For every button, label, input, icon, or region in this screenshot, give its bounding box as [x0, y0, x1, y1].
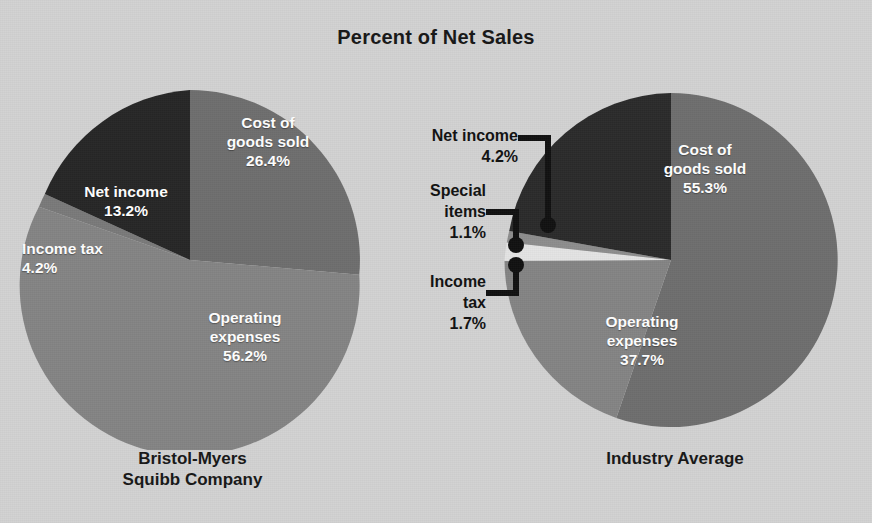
right-label-cost-of-goods: Cost of goods sold 55.3% — [635, 140, 775, 197]
left-label-operating-expenses: Operating expenses 56.2% — [180, 308, 310, 365]
page-title: Percent of Net Sales — [0, 26, 872, 49]
left-label-net-income: Net income 13.2% — [62, 182, 190, 220]
caption-industry-average: Industry Average — [545, 448, 805, 469]
callout-income-tax: Income tax 1.7% — [378, 271, 486, 334]
left-label-income-tax: Income tax 4.2% — [22, 239, 162, 277]
caption-bristol-myers: Bristol-Myers Squibb Company — [60, 448, 325, 490]
leader-net-income — [518, 138, 556, 233]
figure-canvas: Percent of Net Sales Cost of goods sold … — [0, 0, 872, 523]
leader-income-tax — [486, 257, 524, 293]
callout-net-income: Net income 4.2% — [378, 125, 518, 167]
leader-special-items — [486, 212, 524, 253]
left-label-cost-of-goods: Cost of goods sold 26.4% — [203, 113, 333, 170]
callout-special-items: Special items 1.1% — [378, 180, 486, 243]
